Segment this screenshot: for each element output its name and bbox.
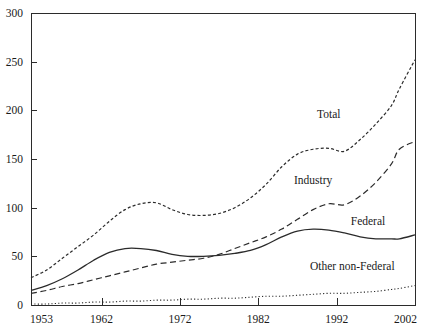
chart-page: 050100150200250300 195319621972198219922… bbox=[0, 0, 430, 334]
series-label-other-non-federal: Other non-Federal bbox=[310, 260, 395, 272]
line-chart: 050100150200250300 195319621972198219922… bbox=[0, 0, 430, 334]
series-annotations-group: TotalIndustryFederalOther non-Federal bbox=[294, 108, 395, 272]
y-tick-label: 50 bbox=[12, 250, 24, 262]
series-label-federal: Federal bbox=[351, 215, 385, 227]
series-line-total bbox=[31, 60, 415, 278]
y-tick-label: 250 bbox=[6, 56, 24, 68]
x-axis-ticks bbox=[103, 298, 338, 305]
x-tick-label: 1982 bbox=[247, 313, 270, 325]
series-line-other-non-federal bbox=[31, 286, 415, 305]
y-tick-label: 100 bbox=[6, 202, 24, 214]
x-tick-label: 1972 bbox=[168, 313, 191, 325]
y-tick-label: 0 bbox=[17, 299, 23, 311]
y-axis-tick-labels: 050100150200250300 bbox=[6, 7, 24, 311]
series-label-industry: Industry bbox=[294, 174, 333, 187]
y-tick-label: 200 bbox=[6, 104, 24, 116]
x-tick-label: 1992 bbox=[325, 313, 348, 325]
y-tick-label: 150 bbox=[6, 153, 24, 165]
series-label-total: Total bbox=[317, 108, 340, 120]
x-tick-label: 1962 bbox=[90, 313, 113, 325]
x-tick-label: 2002 bbox=[394, 313, 417, 325]
y-tick-label: 300 bbox=[6, 7, 24, 19]
x-tick-label: 1953 bbox=[30, 313, 53, 325]
x-axis-tick-labels: 195319621972198219922002 bbox=[30, 313, 417, 325]
